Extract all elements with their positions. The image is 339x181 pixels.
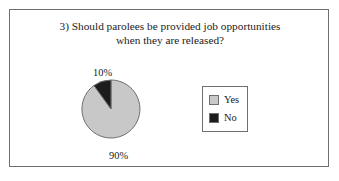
plot-area: 10% 90% Yes No (10, 10, 328, 166)
pie-chart-svg (76, 74, 146, 144)
figure-frame: 3) Should parolees be provided job oppor… (9, 9, 329, 167)
legend-label-no: No (224, 112, 237, 123)
legend-swatch-yes-icon (209, 95, 219, 105)
pie-chart (76, 74, 146, 144)
legend: Yes No (202, 86, 248, 132)
legend-swatch-no-icon (209, 113, 219, 123)
pie-label-yes: 90% (109, 150, 128, 161)
legend-item-yes: Yes (209, 94, 239, 105)
legend-label-yes: Yes (224, 94, 239, 105)
legend-item-no: No (209, 112, 237, 123)
pie-label-no: 10% (93, 67, 112, 78)
